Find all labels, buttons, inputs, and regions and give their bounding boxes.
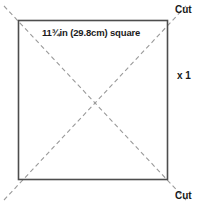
- quantity-label: x 1: [177, 71, 191, 81]
- dimension-label: 11¾in (29.8cm) square: [42, 28, 140, 38]
- cutting-diagram: 11¾in (29.8cm) square Cut Cut x 1: [0, 0, 197, 213]
- square-outline: [19, 21, 168, 180]
- cut-label-bottom: Cut: [175, 191, 192, 201]
- cut-label-top: Cut: [175, 5, 192, 15]
